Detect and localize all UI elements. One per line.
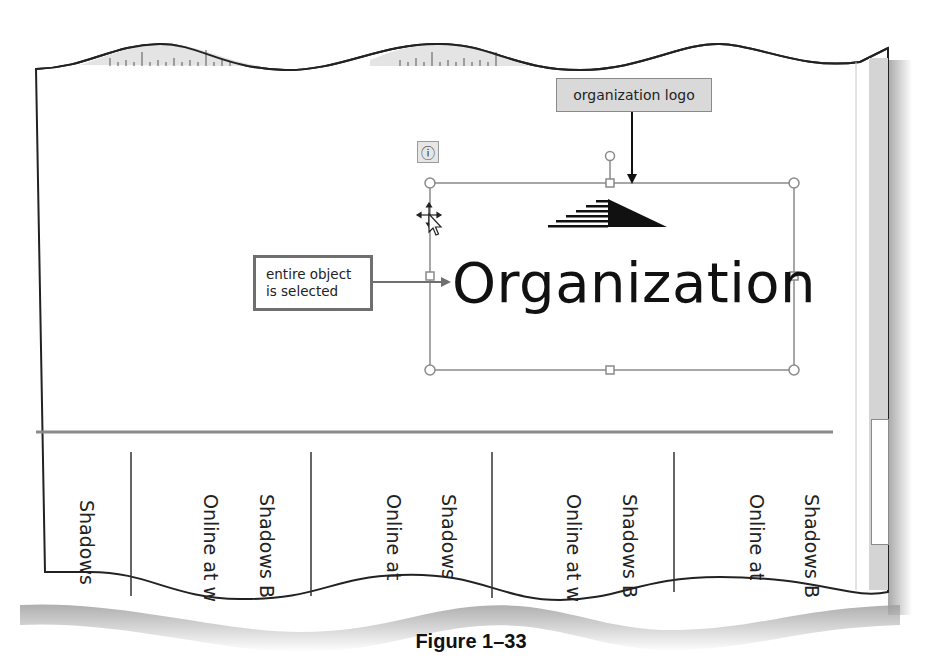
resize-handle-top[interactable] <box>606 179 614 187</box>
resize-handle-top-left[interactable] <box>425 178 435 188</box>
rotation-handle[interactable] <box>606 152 615 161</box>
page-shadow-right <box>888 60 912 615</box>
resize-handle-top-right[interactable] <box>789 178 799 188</box>
tear-off-4-line-2: Online at w <box>563 494 585 602</box>
tear-off-2-line-2: Online at w <box>200 494 222 602</box>
tear-off-1-line-1: Shadows <box>76 500 98 585</box>
resize-handle-left[interactable] <box>426 272 434 280</box>
resize-handle-bottom-left[interactable] <box>425 365 435 375</box>
callout-entire-object-selected: entire object is selected <box>253 255 373 311</box>
logo-text[interactable]: Organization <box>452 248 816 318</box>
tear-off-3-line-2: Online at <box>383 494 405 594</box>
callout-organization-logo: organization logo <box>556 78 712 112</box>
callout-label: organization logo <box>573 87 694 103</box>
callout-line-1: entire object <box>266 266 370 283</box>
tear-off-2-line-1: Shadows B <box>256 494 278 598</box>
info-button[interactable]: ⓘ <box>417 141 439 163</box>
figure-caption: Figure 1–33 <box>0 630 942 653</box>
info-icon: ⓘ <box>421 142 435 162</box>
tear-off-5-line-1: Shadows B <box>801 494 823 602</box>
resize-handle-bottom[interactable] <box>606 366 614 374</box>
tear-off-4-line-1: Shadows B <box>619 494 641 602</box>
callout-line-2: is selected <box>266 283 370 300</box>
vertical-scrollbar-thumb[interactable] <box>871 419 889 545</box>
resize-handle-bottom-right[interactable] <box>789 365 799 375</box>
tear-off-3-line-1: Shadows <box>438 494 460 579</box>
tear-off-5-line-2: Online at <box>746 494 768 586</box>
